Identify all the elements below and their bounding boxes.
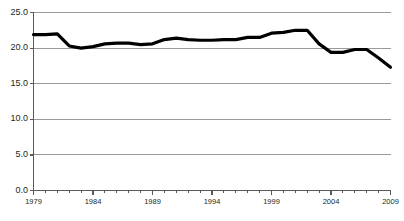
data-line-series-value [34, 30, 391, 67]
x-axis-tick-label: 1999 [252, 197, 292, 206]
y-axis-tick-label: 0.0 [0, 185, 28, 195]
x-axis-tick-label: 1989 [133, 197, 173, 206]
y-axis-tick-label: 15.0 [0, 78, 28, 88]
x-axis-tick-label: 1994 [192, 197, 232, 206]
x-axis-tick-label: 1979 [14, 197, 54, 206]
y-axis-tick-label: 10.0 [0, 113, 28, 123]
y-axis-tick-label: 25.0 [0, 7, 28, 17]
x-axis-tick-label: 1984 [73, 197, 113, 206]
x-axis-tick-label: 2009 [371, 197, 404, 206]
y-axis-tick-label: 20.0 [0, 42, 28, 52]
x-axis-tick-label: 2004 [311, 197, 351, 206]
y-axis-tick-label: 5.0 [0, 149, 28, 159]
